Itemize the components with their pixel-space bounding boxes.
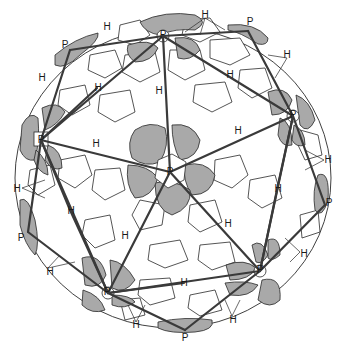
label-pentamer: P bbox=[18, 233, 25, 243]
label-pentamer: P bbox=[326, 198, 333, 208]
label-pentamer: P bbox=[290, 110, 297, 120]
label-hexamer: H bbox=[224, 219, 231, 229]
label-hexamer: H bbox=[155, 86, 162, 96]
label-hexamer: H bbox=[226, 70, 233, 80]
label-pentamer: P bbox=[104, 287, 111, 297]
label-hexamer: H bbox=[103, 22, 110, 32]
label-hexamer: H bbox=[67, 206, 74, 216]
label-hexamer: H bbox=[132, 320, 139, 330]
label-hexamer: H bbox=[234, 126, 241, 136]
label-hexamer: H bbox=[229, 315, 236, 325]
label-hexamer: H bbox=[274, 184, 281, 194]
capsid-diagram bbox=[0, 0, 351, 355]
label-pentamer: P bbox=[38, 135, 45, 145]
label-hexamer: H bbox=[201, 10, 208, 20]
label-pentamer: P bbox=[247, 17, 254, 27]
label-hexamer: H bbox=[283, 50, 290, 60]
label-pentamer: P bbox=[160, 30, 167, 40]
label-hexamer: H bbox=[121, 231, 128, 241]
label-pentamer: P bbox=[257, 265, 264, 275]
label-hexamer: H bbox=[46, 267, 53, 277]
label-hexamer: H bbox=[324, 155, 331, 165]
label-hexamer: H bbox=[92, 139, 99, 149]
label-pentamer-center: P bbox=[167, 167, 174, 177]
label-hexamer: H bbox=[94, 83, 101, 93]
label-hexamer: H bbox=[38, 73, 45, 83]
label-hexamer: H bbox=[180, 278, 187, 288]
label-hexamer: H bbox=[300, 249, 307, 259]
label-pentamer: P bbox=[62, 40, 69, 50]
label-hexamer: H bbox=[13, 184, 20, 194]
label-pentamer: P bbox=[182, 333, 189, 343]
